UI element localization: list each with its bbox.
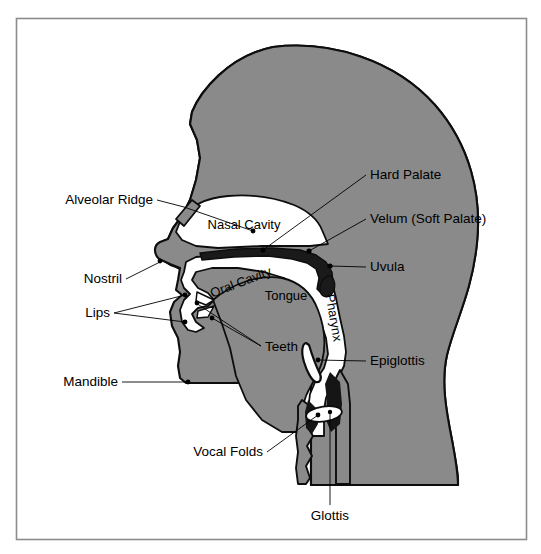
dot-vocal-folds	[316, 413, 321, 418]
dot-nostril	[158, 259, 163, 264]
dot-hard-palate	[260, 247, 265, 252]
dot-lips-upper	[183, 293, 188, 298]
label-lips: Lips	[85, 305, 110, 320]
diagram-canvas: Alveolar Ridge Nostril Lips Teeth Mandib…	[0, 0, 541, 554]
label-nasal-cavity: Nasal Cavity	[208, 217, 281, 232]
vocal-tract-diagram: Alveolar Ridge Nostril Lips Teeth Mandib…	[0, 0, 541, 554]
label-tongue: Tongue	[265, 288, 308, 303]
dot-teeth-lower	[210, 316, 215, 321]
dot-velum	[306, 248, 311, 253]
dot-uvula	[327, 263, 332, 268]
label-vocal-folds: Vocal Folds	[193, 444, 263, 459]
label-glottis: Glottis	[311, 508, 350, 523]
label-velum: Velum (Soft Palate)	[370, 211, 486, 226]
label-alveolar-ridge: Alveolar Ridge	[65, 192, 153, 207]
label-epiglottis: Epiglottis	[370, 353, 425, 368]
label-uvula: Uvula	[370, 259, 405, 274]
dot-epiglottis	[316, 358, 321, 363]
label-hard-palate: Hard Palate	[370, 167, 441, 182]
dot-mandible	[186, 380, 191, 385]
label-teeth: Teeth	[265, 339, 298, 354]
label-nostril: Nostril	[84, 271, 122, 286]
dot-lips-lower	[183, 320, 188, 325]
dot-teeth-upper	[195, 301, 200, 306]
label-mandible: Mandible	[63, 374, 118, 389]
